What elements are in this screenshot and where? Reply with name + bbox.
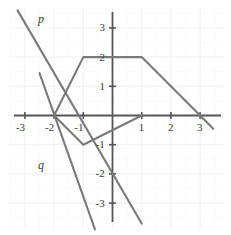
x-tick-label-2: 2 bbox=[168, 122, 174, 133]
x-tick-label--1: -1 bbox=[74, 122, 83, 133]
curve-upper-piecewise bbox=[54, 57, 213, 129]
axes bbox=[14, 12, 221, 222]
x-tick-label-1: 1 bbox=[139, 122, 145, 133]
x-tick-label--3: -3 bbox=[16, 122, 25, 133]
y-tick-label--3: -3 bbox=[96, 198, 105, 209]
gridlines bbox=[8, 8, 225, 228]
curves bbox=[18, 10, 214, 229]
y-tick-label--1: -1 bbox=[96, 139, 105, 150]
y-tick-label-1: 1 bbox=[100, 81, 106, 92]
x-tick-label-3: 3 bbox=[197, 122, 203, 133]
y-tick-label--2: -2 bbox=[96, 168, 105, 179]
plot-area bbox=[0, 0, 231, 235]
x-tick-label--2: -2 bbox=[45, 122, 54, 133]
y-tick-label-2: 2 bbox=[100, 52, 106, 63]
chart-figure: -3-2-1123-3-2-1123pq bbox=[0, 0, 231, 235]
y-tick-label-3: 3 bbox=[100, 22, 106, 33]
curve-label-p: p bbox=[38, 13, 44, 25]
curve-label-q: q bbox=[38, 159, 44, 171]
